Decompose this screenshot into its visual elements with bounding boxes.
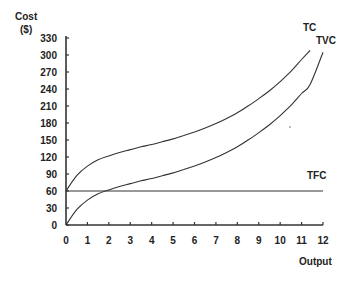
x-tick-label: 10: [275, 235, 287, 246]
x-tick-label: 6: [192, 235, 198, 246]
y-tick-label: 210: [40, 101, 57, 112]
y-axis-ticks: 0306090120150180210240270300330: [40, 33, 69, 231]
x-tick-label: 12: [317, 235, 329, 246]
x-tick-label: 8: [235, 235, 241, 246]
x-tick-label: 7: [213, 235, 219, 246]
y-tick-label: 180: [40, 118, 57, 129]
stray-dot: [289, 126, 291, 128]
x-tick-label: 2: [106, 235, 112, 246]
x-tick-label: 1: [85, 235, 91, 246]
y-tick-label: 60: [46, 186, 58, 197]
x-tick-label: 4: [149, 235, 155, 246]
y-tick-label: 300: [40, 50, 57, 61]
y-tick-label: 150: [40, 135, 57, 146]
x-tick-label: 9: [256, 235, 262, 246]
x-tick-label: 0: [63, 235, 69, 246]
y-tick-label: 0: [51, 220, 57, 231]
y-tick-label: 330: [40, 33, 57, 44]
y-tick-label: 30: [46, 203, 58, 214]
y-tick-label: 270: [40, 67, 57, 78]
y-tick-label: 90: [46, 169, 58, 180]
x-tick-label: 5: [170, 235, 176, 246]
x-tick-label: 11: [296, 235, 307, 246]
curves: [66, 51, 323, 226]
cost-curves-plot: 0306090120150180210240270300330 01234567…: [0, 0, 352, 282]
x-tick-label: 3: [127, 235, 133, 246]
axes: [66, 36, 323, 225]
y-tick-label: 240: [40, 84, 57, 95]
y-tick-label: 120: [40, 152, 57, 163]
